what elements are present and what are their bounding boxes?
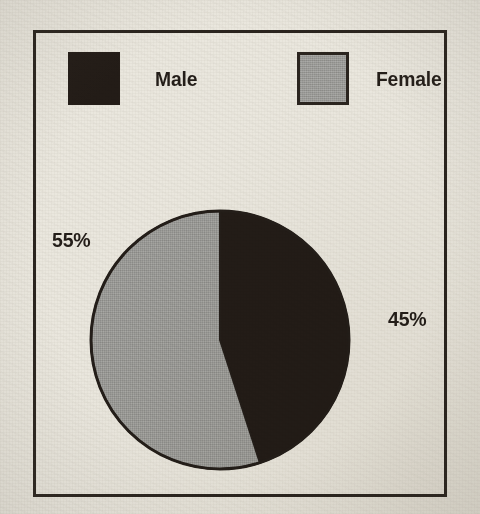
pie-chart [88,208,352,472]
slice-label-female-percent: 55% [52,228,91,252]
legend-label-male: Male [155,67,197,91]
legend-label-female: Female [376,67,441,91]
legend-item-male[interactable]: Male [68,52,201,105]
legend-swatch-female [297,52,349,105]
pie-chart-svg [88,208,352,472]
legend-swatch-male [68,52,120,105]
legend-item-female[interactable]: Female [297,52,447,105]
slice-label-male-percent: 45% [388,307,427,331]
scanned-page: Male Female 55% 45% [0,0,480,514]
